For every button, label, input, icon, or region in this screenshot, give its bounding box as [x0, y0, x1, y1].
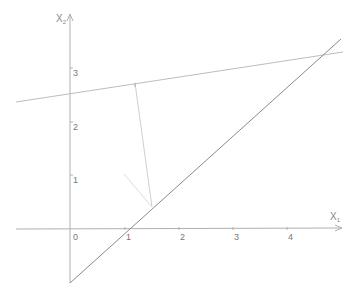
x-axis-label: X1 [330, 211, 341, 223]
x-tick-label-3: 3 [234, 232, 239, 242]
y-tick-label-1: 1 [73, 175, 78, 185]
y-axis-label: X2 [56, 13, 67, 25]
line-through-1-0 [70, 39, 341, 283]
y-tick-label-3: 3 [73, 68, 78, 78]
diagram-canvas: 0 1 2 3 4 1 2 3 X1 X2 [0, 0, 359, 306]
y-tick-label-2: 2 [73, 122, 78, 132]
x-tick-label-2: 2 [180, 232, 185, 242]
near-horizontal-line [16, 52, 343, 102]
origin-label: 0 [73, 232, 78, 242]
projection-segment [135, 83, 152, 207]
x-tick-label-1: 1 [126, 232, 131, 242]
x-tick-label-4: 4 [288, 232, 293, 242]
